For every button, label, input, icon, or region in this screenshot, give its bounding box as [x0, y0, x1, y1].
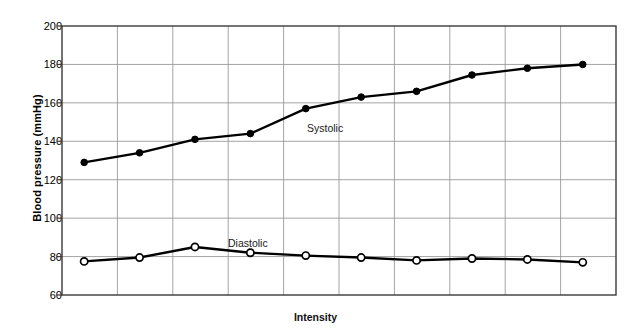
data-point-systolic	[579, 61, 586, 68]
data-point-diastolic	[358, 254, 365, 261]
data-point-diastolic	[413, 257, 420, 264]
data-point-diastolic	[579, 259, 586, 266]
data-point-systolic	[469, 72, 476, 79]
data-series-group	[81, 61, 587, 266]
data-point-systolic	[81, 159, 88, 166]
data-point-diastolic	[136, 254, 143, 261]
x-axis-title: Intensity	[0, 311, 631, 323]
plot-area	[0, 0, 631, 333]
vertical-gridlines	[117, 26, 560, 295]
data-point-diastolic	[247, 249, 254, 256]
data-point-systolic	[302, 105, 309, 112]
data-point-diastolic	[302, 252, 309, 259]
series-line-systolic	[84, 64, 583, 162]
data-point-systolic	[524, 65, 531, 72]
data-point-diastolic	[81, 258, 88, 265]
data-point-systolic	[358, 94, 365, 101]
axis-tick-marks	[57, 26, 62, 295]
series-label-systolic: Systolic	[307, 122, 343, 134]
data-point-systolic	[136, 150, 143, 157]
data-point-systolic	[192, 136, 199, 143]
data-point-diastolic	[191, 243, 198, 250]
blood-pressure-line-chart: Blood pressure (mmHg) 608010012014016018…	[0, 0, 631, 333]
data-point-systolic	[413, 88, 420, 95]
data-point-systolic	[247, 130, 254, 137]
data-point-diastolic	[468, 255, 475, 262]
series-line-diastolic	[84, 247, 583, 262]
data-point-diastolic	[524, 256, 531, 263]
series-label-diastolic: Diastolic	[228, 237, 268, 249]
